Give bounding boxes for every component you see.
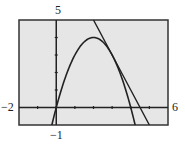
x-min-label: −2 xyxy=(1,101,14,113)
y-min-label: −1 xyxy=(50,129,63,141)
graph-plot xyxy=(0,0,185,152)
plot-background xyxy=(19,20,168,125)
y-max-label: 5 xyxy=(55,4,61,16)
x-max-label: 6 xyxy=(172,101,178,113)
